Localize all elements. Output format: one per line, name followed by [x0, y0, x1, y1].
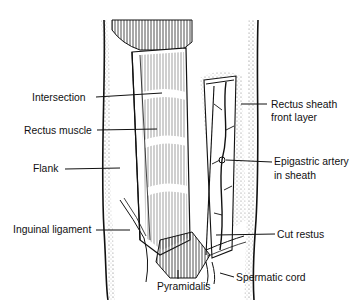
label-flank: Flank — [33, 162, 58, 175]
abdominal-wall-drawing — [0, 0, 355, 300]
label-rectus-sheath: Rectus sheath — [271, 98, 337, 111]
label-intersection: Intersection — [32, 91, 86, 104]
label-epigastric-artery: Epigastric artery — [274, 155, 349, 168]
label-spermatic-cord: Spermatic cord — [236, 271, 306, 284]
label-epigastric-artery-line2: in sheath — [274, 169, 316, 182]
label-rectus-muscle: Rectus muscle — [24, 124, 92, 137]
label-inguinal-ligament: Inguinal ligament — [13, 223, 91, 236]
label-pyramidalis: Pyramidalis — [157, 280, 210, 293]
label-rectus-sheath-line2: front layer — [271, 111, 317, 124]
anatomy-diagram: Intersection Rectus muscle Flank Inguina… — [0, 0, 355, 300]
label-cut-rectus: Cut restus — [277, 228, 324, 241]
